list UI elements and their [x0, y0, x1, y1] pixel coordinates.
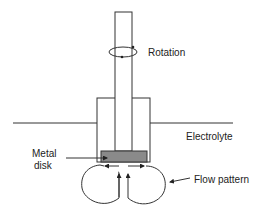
- flow-pattern-label: Flow pattern: [194, 174, 249, 186]
- electrolyte-label: Electrolyte: [186, 131, 233, 143]
- flow-loop-left: [82, 165, 119, 203]
- flow-loop-right: [128, 166, 165, 204]
- flow-pattern-pointer: [170, 178, 190, 182]
- rotation-label: Rotation: [148, 47, 185, 59]
- metal-disk: [101, 151, 147, 162]
- metal-disk-label-line2: disk: [34, 160, 52, 172]
- electrode-shaft: [115, 12, 132, 151]
- metal-disk-label-line1: Metal: [32, 148, 56, 160]
